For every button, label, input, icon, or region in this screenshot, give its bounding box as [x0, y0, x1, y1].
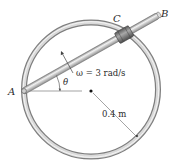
label-theta: θ [63, 77, 68, 87]
center-dot [89, 89, 92, 92]
radius-endpoint [136, 135, 138, 137]
theta-arrowhead [59, 88, 61, 91]
pin-a [22, 89, 27, 94]
diagram-canvas: A B C θ ω = 3 rad/s 0.4 m [0, 0, 176, 163]
omega-arrowhead [61, 51, 64, 55]
label-b: B [160, 8, 168, 19]
label-radius: 0.4 m [102, 109, 126, 119]
label-omega: ω = 3 rad/s [76, 68, 125, 78]
label-c: C [113, 13, 121, 24]
label-a: A [7, 86, 15, 97]
